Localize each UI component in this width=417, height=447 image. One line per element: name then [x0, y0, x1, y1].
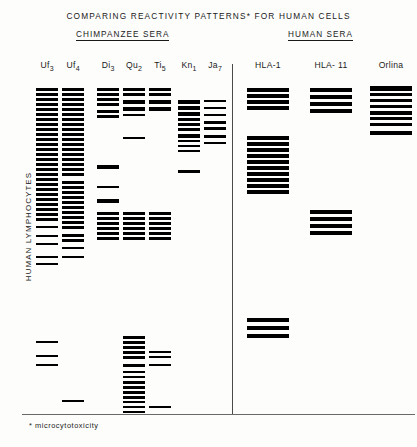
reactivity-band	[36, 88, 58, 91]
reactivity-band	[178, 100, 200, 104]
reactivity-band	[36, 168, 58, 171]
reactivity-band	[149, 222, 171, 225]
reactivity-band	[36, 178, 58, 181]
reactivity-band	[370, 93, 412, 96]
reactivity-band	[97, 227, 119, 230]
reactivity-band	[36, 218, 58, 221]
reactivity-band	[370, 131, 412, 135]
reactivity-band	[36, 118, 58, 121]
reactivity-band	[123, 93, 145, 96]
reactivity-band	[97, 115, 119, 118]
reactivity-band	[123, 371, 145, 373]
reactivity-band	[123, 386, 145, 389]
reactivity-band	[310, 95, 352, 99]
reactivity-band	[97, 103, 119, 106]
reactivity-band	[370, 105, 412, 108]
lane-hla-1	[247, 0, 289, 447]
reactivity-band	[178, 134, 200, 138]
reactivity-band	[36, 158, 58, 161]
reactivity-band	[36, 235, 58, 237]
reactivity-band	[62, 98, 84, 101]
reactivity-band	[123, 351, 145, 354]
reactivity-band	[62, 133, 84, 136]
reactivity-band	[178, 118, 200, 121]
reactivity-band	[62, 103, 84, 106]
reactivity-band	[247, 190, 289, 194]
reactivity-band	[149, 237, 171, 240]
reactivity-band	[247, 136, 289, 140]
reactivity-band	[62, 400, 84, 402]
reactivity-band	[36, 143, 58, 146]
reactivity-band	[370, 123, 412, 126]
reactivity-band	[36, 133, 58, 136]
reactivity-band	[36, 148, 58, 151]
reactivity-band	[123, 137, 145, 139]
reactivity-band	[36, 226, 58, 228]
reactivity-band	[247, 334, 289, 338]
reactivity-band	[178, 123, 200, 126]
reactivity-band	[178, 140, 200, 142]
reactivity-band	[123, 222, 145, 225]
reactivity-band	[62, 196, 84, 199]
reactivity-band	[36, 108, 58, 111]
reactivity-band	[62, 239, 84, 242]
reactivity-band	[62, 234, 84, 237]
reactivity-band	[36, 256, 58, 258]
reactivity-band	[62, 113, 84, 116]
lane-uf3	[36, 0, 58, 447]
reactivity-band	[36, 163, 58, 166]
reactivity-band	[62, 247, 84, 249]
reactivity-band	[247, 142, 289, 146]
reactivity-band	[62, 168, 84, 171]
reactivity-band	[62, 108, 84, 111]
reactivity-band	[310, 224, 352, 228]
reactivity-band	[97, 199, 119, 203]
reactivity-band	[62, 186, 84, 189]
reactivity-band	[370, 111, 412, 115]
reactivity-band	[149, 364, 171, 366]
reactivity-band	[62, 216, 84, 219]
reactivity-band	[62, 173, 84, 176]
reactivity-band	[36, 208, 58, 211]
reactivity-band	[178, 112, 200, 116]
reactivity-band	[123, 107, 145, 111]
reactivity-band	[62, 138, 84, 141]
reactivity-band	[149, 232, 171, 235]
reactivity-band	[247, 166, 289, 170]
reactivity-band	[149, 107, 171, 111]
reactivity-band	[123, 336, 145, 339]
reactivity-band	[123, 364, 145, 367]
reactivity-band	[123, 237, 145, 240]
reactivity-band	[97, 217, 119, 220]
reactivity-band	[247, 178, 289, 182]
reactivity-band	[62, 191, 84, 194]
reactivity-band	[310, 217, 352, 221]
reactivity-band	[97, 222, 119, 225]
reactivity-band	[62, 221, 84, 224]
reactivity-band	[149, 212, 171, 215]
reactivity-band	[36, 198, 58, 201]
reactivity-band	[247, 184, 289, 188]
reactivity-band	[62, 163, 84, 166]
reactivity-band	[62, 153, 84, 156]
reactivity-band	[247, 88, 289, 92]
reactivity-band	[247, 172, 289, 176]
reactivity-band	[36, 355, 58, 357]
reactivity-band	[36, 138, 58, 141]
reactivity-band	[36, 113, 58, 116]
reactivity-band	[123, 100, 145, 104]
lane-qu2	[123, 0, 145, 447]
reactivity-band	[204, 142, 226, 144]
reactivity-band	[247, 100, 289, 104]
reactivity-band	[36, 188, 58, 191]
reactivity-band	[97, 237, 119, 240]
reactivity-band	[247, 148, 289, 152]
reactivity-band	[97, 212, 119, 215]
reactivity-band	[370, 86, 412, 91]
lane-hla-11	[310, 0, 352, 447]
reactivity-band	[123, 391, 145, 394]
reactivity-band	[36, 243, 58, 245]
reactivity-band	[36, 263, 58, 265]
reactivity-band	[178, 106, 200, 110]
reactivity-band	[310, 109, 352, 113]
